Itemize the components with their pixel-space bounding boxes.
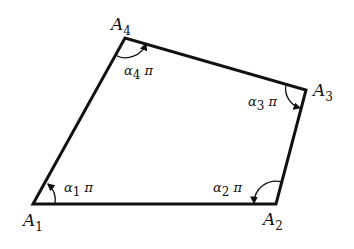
- quadrilateral-diagram: A4 A3 A1 A2 α4 π α3 π α1 π α2 π: [0, 0, 354, 249]
- quadrilateral-outline: [33, 38, 306, 204]
- angle-label-a2: α2 π: [213, 180, 243, 199]
- vertex-label-a1: A1: [21, 210, 43, 234]
- vertex-label-a3: A3: [311, 80, 333, 104]
- angle-label-a3: α3 π: [248, 94, 278, 113]
- angle-label-a1: α1 π: [64, 180, 94, 199]
- vertex-label-a2: A2: [261, 209, 283, 233]
- angle-label-a4: α4 π: [124, 63, 154, 82]
- angle-arc-a1: [48, 184, 55, 204]
- vertex-label-a4: A4: [109, 14, 131, 38]
